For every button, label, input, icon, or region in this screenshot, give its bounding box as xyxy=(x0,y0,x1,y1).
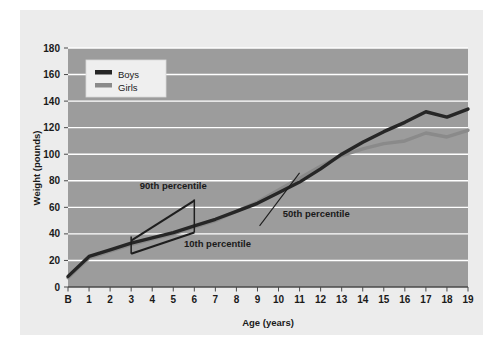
y-axis-tick-labels: 020406080100120140160180 xyxy=(43,43,60,293)
y-axis-tick-label: 140 xyxy=(43,96,60,107)
y-axis-tick-label: 0 xyxy=(54,282,60,293)
y-axis-title: Weight (pounds) xyxy=(31,131,42,206)
x-axis-tick-label: 15 xyxy=(378,294,390,305)
x-axis-tick-label: B xyxy=(64,294,71,305)
x-axis-tick-label: 14 xyxy=(357,294,369,305)
y-axis-tick-label: 100 xyxy=(43,149,60,160)
x-axis-tick-label: 13 xyxy=(336,294,348,305)
x-axis-tick-label: 10 xyxy=(273,294,285,305)
x-axis-tick-label: 7 xyxy=(213,294,219,305)
x-axis-tick-label: 12 xyxy=(315,294,327,305)
x-axis-tick-label: 5 xyxy=(170,294,176,305)
legend-swatch-girls xyxy=(95,83,112,88)
x-axis-tick-label: 1 xyxy=(86,294,92,305)
growth-chart-figure: 020406080100120140160180 B12345678910111… xyxy=(0,0,503,360)
x-axis-tick-label: 18 xyxy=(441,294,453,305)
legend-label-girls: Girls xyxy=(118,82,138,93)
legend-label-boys: Boys xyxy=(118,69,139,80)
x-axis-title: Age (years) xyxy=(242,317,294,328)
x-axis-tick-label: 3 xyxy=(128,294,134,305)
y-axis-tick-label: 80 xyxy=(49,175,61,186)
y-axis-tick-label: 40 xyxy=(49,228,61,239)
y-axis-tick-label: 60 xyxy=(49,202,61,213)
y-axis-tick-label: 180 xyxy=(43,43,60,54)
x-axis-tick-label: 19 xyxy=(462,294,474,305)
annotation-label-90th-percentile: 90th percentile xyxy=(140,180,207,191)
x-axis-tick-label: 8 xyxy=(234,294,240,305)
x-axis-tick-label: 11 xyxy=(294,294,305,305)
annotation-label-50th-percentile: 50th percentile xyxy=(283,208,350,219)
x-axis-tick-label: 17 xyxy=(420,294,432,305)
legend-swatch-boys xyxy=(95,70,112,75)
x-axis-tick-labels: B12345678910111213141516171819 xyxy=(64,294,474,305)
y-axis-tick-label: 120 xyxy=(43,122,60,133)
x-axis-tick-label: 16 xyxy=(399,294,411,305)
annotation-label-10th-percentile: 10th percentile xyxy=(184,238,251,249)
x-axis-tick-label: 6 xyxy=(192,294,198,305)
x-axis-tick-label: 9 xyxy=(255,294,261,305)
x-axis-ticks xyxy=(68,287,468,292)
y-axis-tick-label: 160 xyxy=(43,69,60,80)
chart-screenshot: 020406080100120140160180 B12345678910111… xyxy=(0,0,503,360)
x-axis-tick-label: 4 xyxy=(149,294,155,305)
y-axis-tick-label: 20 xyxy=(49,255,61,266)
x-axis-tick-label: 2 xyxy=(107,294,113,305)
chart-legend: Boys Girls xyxy=(86,60,166,97)
